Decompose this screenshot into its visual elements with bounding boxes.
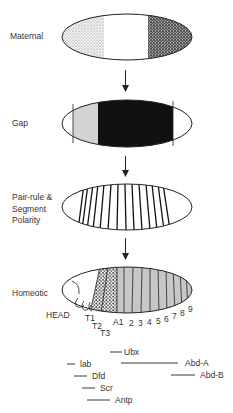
arrow-down-icon [122, 70, 129, 92]
pair-rule-embryo [62, 184, 192, 230]
gene-label-dfd: Dfd [92, 371, 105, 381]
maternal-embryo [60, 12, 194, 62]
segment-label-a7: 7 [172, 311, 177, 321]
segment-label-a4: 4 [147, 317, 152, 327]
stage-label-pair-rule: Pair-rule & Segment Polarity [12, 192, 52, 227]
segment-label-a3: 3 [138, 318, 143, 328]
stage-label-line: Polarity [12, 215, 52, 227]
segment-label-a9: 9 [188, 304, 193, 314]
stage-label-maternal: Maternal [10, 31, 43, 42]
gene-label-abd-a: Abd-A [185, 358, 209, 368]
arrow-down-icon [122, 238, 129, 260]
segment-label-a1: A1 [113, 317, 123, 327]
stage-label-homeotic: Homeotic [12, 288, 48, 299]
segment-label-a2: 2 [129, 318, 134, 328]
gene-label-lab: lab [80, 359, 91, 369]
gene-label-antp: Antp [115, 395, 133, 405]
homeotic-embryo [60, 265, 200, 317]
segment-label-t3: T3 [100, 328, 110, 338]
gene-label-abd-b: Abd-B [200, 370, 224, 380]
segment-label-a6: 6 [164, 314, 169, 324]
stage-label-line: Segment [12, 204, 52, 216]
gene-label-ubx: Ubx [124, 347, 139, 357]
stage-label-line: Pair-rule & [12, 192, 52, 204]
gene-label-scr: Scr [100, 383, 113, 393]
arrow-down-icon [122, 156, 129, 177]
segment-label-a8: 8 [180, 308, 185, 318]
gap-embryo [60, 98, 195, 150]
stage-label-gap: Gap [12, 118, 28, 129]
segment-label-a5: 5 [156, 316, 161, 326]
segment-label-head: HEAD [46, 310, 70, 320]
